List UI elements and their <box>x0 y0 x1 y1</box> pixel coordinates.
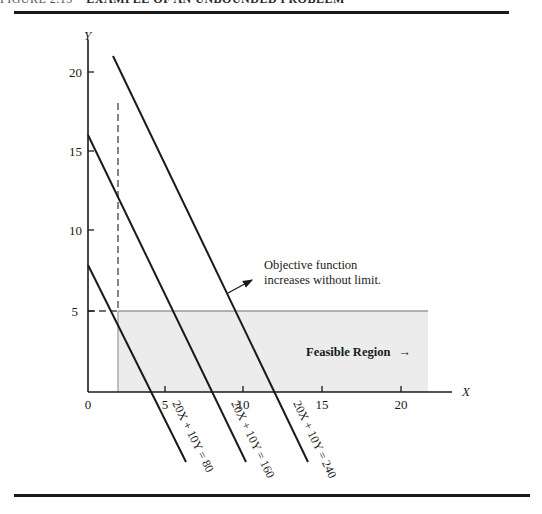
x-axis-title: X <box>461 384 471 399</box>
bottom-rule-right <box>250 494 530 497</box>
y-tick-10: 10 <box>69 223 82 238</box>
right-arrow-icon: → <box>398 345 411 360</box>
feasible-region-label: Feasible Region→ <box>306 345 411 360</box>
x-tick-15: 15 <box>316 397 329 412</box>
chart: 5 10 15 20 Y 0 5 10 15 20 X 20X + 10Y = … <box>0 0 542 514</box>
feasible-region-text: Feasible Region <box>306 345 390 359</box>
y-axis-title: Y <box>84 28 93 43</box>
objective-annotation-line2: increases without limit. <box>264 273 381 288</box>
y-tick-20: 20 <box>69 65 82 80</box>
isoline-80-label: 20X + 10Y = 80 <box>169 398 217 474</box>
objective-annotation-line1: Objective function <box>264 258 381 273</box>
x-tick-20: 20 <box>395 397 408 412</box>
isoline-160 <box>88 135 246 462</box>
y-tick-5: 5 <box>72 304 79 319</box>
bottom-rule-left <box>14 494 279 497</box>
x-tick-0: 0 <box>85 397 92 412</box>
annotation-arrow <box>228 280 252 293</box>
objective-annotation: Objective function increases without lim… <box>264 258 381 288</box>
x-tick-5: 5 <box>162 397 169 412</box>
y-tick-15: 15 <box>69 144 82 159</box>
